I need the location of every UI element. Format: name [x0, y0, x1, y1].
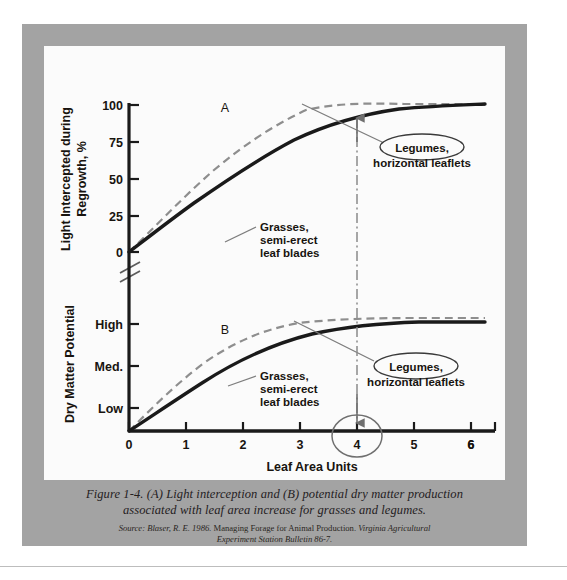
panel-a-y-axis-title: Light Intercepted during: [59, 107, 73, 251]
panel-b-ytick-low: Low: [98, 402, 123, 416]
panel-b-label: B: [221, 323, 229, 337]
panel-a-ytick-75: 75: [109, 136, 123, 150]
panel-a: 100 75 50 25 0 Light Intercepted during …: [59, 99, 485, 289]
x-tick-1: 1: [183, 438, 190, 452]
source-line-2: Experiment Station Bulletin 86-7.: [44, 534, 505, 545]
x-axis-title: Leaf Area Units: [266, 460, 357, 474]
panel-a-grasses-callout-line1: Grasses,: [260, 221, 309, 233]
panel-a-grasses-callout-line3: leaf blades: [260, 247, 319, 259]
panel-a-y-axis-title-cont: Regrowth, %: [75, 141, 89, 217]
chart-svg: 100 75 50 25 0 Light Intercepted during …: [44, 46, 505, 480]
x-tick-6-label: 6: [468, 438, 475, 452]
x-tick-0: 0: [126, 438, 133, 452]
panel-a-legumes-callout-line1: Legumes,: [395, 142, 449, 154]
page-bottom-ghost-text: [8, 570, 208, 578]
panel-a-ytick-50: 50: [109, 173, 123, 187]
figure-border-frame: 100 75 50 25 0 Light Intercepted during …: [22, 24, 527, 546]
x-tick-3: 3: [297, 438, 304, 452]
x-tick-2: 2: [240, 438, 247, 452]
figure-plot-panel: 100 75 50 25 0 Light Intercepted during …: [44, 46, 505, 480]
caption-line-1: Figure 1-4. (A) Light interception and (…: [44, 486, 505, 502]
panel-a-ytick-0: 0: [116, 246, 123, 260]
panel-a-grasses-callout-line2: semi-erect: [260, 234, 318, 246]
panel-b-grasses-callout-line3: leaf blades: [260, 396, 319, 408]
panel-b: High Med. Low Dry Matter Potential B Gra…: [63, 289, 485, 431]
panel-a-grasses-leader: [225, 227, 256, 242]
x-ticks-right: 6: [468, 438, 475, 452]
source-italic-2: Experiment Station Bulletin 86-7.: [217, 534, 333, 544]
panel-b-ytick-high: High: [95, 318, 123, 332]
panel-b-grasses-callout-line2: semi-erect: [260, 383, 318, 395]
x-tick-4: 4: [354, 438, 361, 452]
panel-a-label: A: [221, 101, 230, 115]
caption-line-2: associated with leaf area increase for g…: [44, 502, 505, 518]
page-bottom-rule: [0, 566, 567, 567]
panel-a-legumes-callout-line2: horizontal leaflets: [373, 157, 471, 169]
panel-a-legumes-leader: [302, 104, 382, 142]
figure-caption-block: Figure 1-4. (A) Light interception and (…: [44, 486, 505, 542]
panel-b-grasses-callout-line1: Grasses,: [260, 370, 309, 382]
panel-a-ytick-100: 100: [102, 99, 123, 113]
x-axis-group: 0 1 2 3 4 5 6 Leaf Area Units: [126, 422, 495, 474]
source-italic: Virginia Agricultural: [358, 523, 430, 533]
panel-b-legumes-callout-line1: Legumes,: [389, 361, 443, 373]
source-line: Source: Blaser, R. E. 1986. Managing For…: [44, 523, 505, 534]
panel-b-grasses-leader: [228, 376, 256, 386]
panel-a-ytick-25: 25: [109, 210, 123, 224]
panel-b-legumes-callout-line2: horizontal leaflets: [367, 376, 465, 388]
panel-b-y-axis-title: Dry Matter Potential: [63, 305, 77, 423]
x-tick-5: 5: [411, 438, 418, 452]
source-prefix: Source: Blaser, R. E. 1986.: [119, 523, 212, 533]
source-mid: Managing Forage for Animal Production.: [211, 523, 358, 533]
panel-b-ytick-med: Med.: [95, 360, 123, 374]
